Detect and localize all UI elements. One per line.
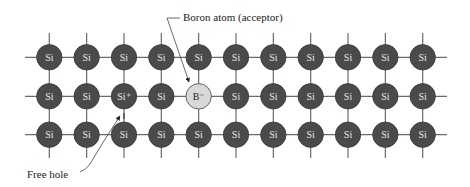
- silicon-atom: Si: [223, 45, 248, 70]
- atom-label: Si: [120, 129, 129, 140]
- atom-label: Si⁺: [117, 91, 130, 102]
- atom-label: Si: [419, 52, 428, 63]
- silicon-atom: Si: [74, 122, 99, 147]
- atom-grid: SiSiSiSiSiSiSiSiSiSiSiSiSiSi⁺SiB⁻SiSiSiS…: [37, 45, 436, 148]
- silicon-atom: Si: [186, 45, 211, 70]
- atom-label: Si: [82, 91, 91, 102]
- atom-label: Si: [120, 52, 129, 63]
- atom-label: Si: [157, 129, 166, 140]
- silicon-atom: Si: [335, 122, 360, 147]
- atom-label: Si: [269, 91, 278, 102]
- silicon-atom: Si: [149, 84, 174, 109]
- boron-annotation-label: Boron atom (acceptor): [183, 11, 283, 24]
- atom-label: Si: [232, 129, 241, 140]
- silicon-atom: Si: [261, 84, 286, 109]
- silicon-atom: Si: [223, 84, 248, 109]
- silicon-atom: Si: [149, 122, 174, 147]
- ionized-silicon-atom: Si⁺: [111, 84, 136, 109]
- atom-label: Si: [45, 52, 54, 63]
- silicon-atom: Si: [37, 122, 62, 147]
- atom-label: Si: [82, 129, 91, 140]
- free-hole-annotation-label: Free hole: [27, 168, 68, 180]
- silicon-atom: Si: [335, 84, 360, 109]
- boron-atom: B⁻: [186, 84, 211, 109]
- silicon-atom: Si: [186, 122, 211, 147]
- silicon-atom: Si: [335, 45, 360, 70]
- silicon-atom: Si: [410, 84, 435, 109]
- atom-label: Si: [307, 129, 316, 140]
- lattice-diagram: SiSiSiSiSiSiSiSiSiSiSiSiSiSi⁺SiB⁻SiSiSiS…: [0, 0, 470, 187]
- silicon-atom: Si: [74, 84, 99, 109]
- silicon-atom: Si: [223, 122, 248, 147]
- atom-label: Si: [307, 52, 316, 63]
- atom-label: Si: [45, 129, 54, 140]
- atom-label: Si: [157, 91, 166, 102]
- silicon-atom: Si: [37, 84, 62, 109]
- silicon-atom: Si: [74, 45, 99, 70]
- atom-label: Si: [157, 52, 166, 63]
- atom-label: Si: [381, 129, 390, 140]
- atom-label: Si: [82, 52, 91, 63]
- silicon-atom: Si: [373, 45, 398, 70]
- atom-label: Si: [381, 91, 390, 102]
- silicon-atom: Si: [373, 122, 398, 147]
- atom-label: B⁻: [193, 91, 205, 102]
- atom-label: Si: [45, 91, 54, 102]
- atom-label: Si: [269, 129, 278, 140]
- atom-label: Si: [419, 91, 428, 102]
- silicon-atom: Si: [373, 84, 398, 109]
- silicon-atom: Si: [410, 122, 435, 147]
- atom-label: Si: [194, 129, 203, 140]
- atom-label: Si: [344, 91, 353, 102]
- atom-label: Si: [232, 91, 241, 102]
- silicon-atom: Si: [298, 84, 323, 109]
- silicon-atom: Si: [261, 122, 286, 147]
- silicon-atom: Si: [37, 45, 62, 70]
- silicon-atom: Si: [410, 45, 435, 70]
- atom-label: Si: [381, 52, 390, 63]
- atom-label: Si: [344, 129, 353, 140]
- atom-label: Si: [194, 52, 203, 63]
- silicon-atom: Si: [111, 45, 136, 70]
- atom-label: Si: [269, 52, 278, 63]
- atom-label: Si: [307, 91, 316, 102]
- atom-label: Si: [419, 129, 428, 140]
- silicon-atom: Si: [111, 122, 136, 147]
- atom-label: Si: [232, 52, 241, 63]
- silicon-atom: Si: [149, 45, 174, 70]
- silicon-atom: Si: [298, 122, 323, 147]
- atom-label: Si: [344, 52, 353, 63]
- silicon-atom: Si: [261, 45, 286, 70]
- silicon-atom: Si: [298, 45, 323, 70]
